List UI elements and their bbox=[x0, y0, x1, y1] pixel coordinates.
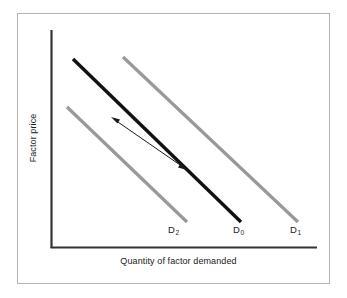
curve-label-d0: D0 bbox=[233, 224, 244, 235]
curve-label-d1-subscript: 1 bbox=[297, 229, 301, 236]
plot-area bbox=[0, 0, 347, 298]
x-axis-label: Quantity of factor demanded bbox=[51, 256, 306, 266]
curve-label-d2-base: D bbox=[168, 224, 175, 235]
curve-label-d2: D2 bbox=[168, 224, 179, 235]
curve-label-d1: D1 bbox=[290, 224, 301, 235]
demand-curve-d0 bbox=[73, 59, 241, 222]
curve-label-d1-base: D bbox=[290, 224, 297, 235]
curve-label-d0-base: D bbox=[233, 224, 240, 235]
y-axis-label: Factor price bbox=[28, 88, 38, 188]
curve-label-d2-subscript: 2 bbox=[175, 229, 179, 236]
curve-label-d0-subscript: 0 bbox=[240, 229, 244, 236]
demand-curve-d2 bbox=[67, 107, 187, 222]
demand-curve-d1 bbox=[123, 57, 298, 222]
figure-canvas: Quantity of factor demanded Factor price… bbox=[0, 0, 347, 298]
